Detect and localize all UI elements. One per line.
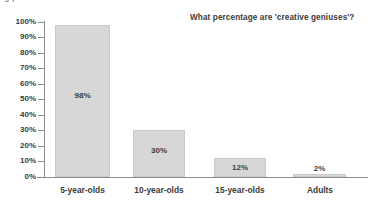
y-tick-80 bbox=[38, 53, 44, 54]
y-tick-70 bbox=[38, 68, 44, 69]
x-label-adults: Adults bbox=[282, 185, 358, 195]
y-tick-50 bbox=[38, 99, 44, 100]
y-tick-60 bbox=[38, 84, 44, 85]
y-tick-90 bbox=[38, 37, 44, 38]
plot-area: 100% 90% 80% 70% 60% 50% 40% 30% 20% 10%… bbox=[0, 0, 370, 208]
y-label-0: 0% bbox=[0, 173, 36, 181]
bar-value-15-year-olds: 12% bbox=[214, 163, 266, 172]
y-label-50: 50% bbox=[0, 95, 36, 103]
y-label-30: 30% bbox=[0, 126, 36, 134]
x-label-10-year-olds: 10-year-olds bbox=[121, 185, 197, 195]
y-label-70: 70% bbox=[0, 64, 36, 72]
y-label-100: 100% bbox=[0, 18, 36, 26]
x-axis-line bbox=[37, 177, 368, 178]
bar-5-year-olds bbox=[55, 25, 110, 177]
y-tick-100 bbox=[38, 22, 44, 23]
y-label-90: 90% bbox=[0, 33, 36, 41]
y-tick-10 bbox=[38, 161, 44, 162]
y-tick-20 bbox=[38, 146, 44, 147]
bar-value-adults: 2% bbox=[293, 164, 346, 173]
y-tick-40 bbox=[38, 115, 44, 116]
y-label-60: 60% bbox=[0, 80, 36, 88]
y-label-80: 80% bbox=[0, 49, 36, 57]
y-tick-0 bbox=[38, 177, 44, 178]
y-label-40: 40% bbox=[0, 111, 36, 119]
x-label-15-year-olds: 15-year-olds bbox=[202, 185, 278, 195]
bar-adults bbox=[293, 174, 346, 177]
bar-chart: g p What percentage are 'creative genius… bbox=[0, 0, 370, 208]
y-label-10: 10% bbox=[0, 157, 36, 165]
bar-value-10-year-olds: 30% bbox=[133, 146, 185, 155]
x-label-5-year-olds: 5-year-olds bbox=[45, 185, 120, 195]
bar-value-5-year-olds: 98% bbox=[55, 91, 110, 100]
y-label-20: 20% bbox=[0, 142, 36, 150]
y-axis-line bbox=[44, 21, 45, 178]
y-tick-30 bbox=[38, 130, 44, 131]
